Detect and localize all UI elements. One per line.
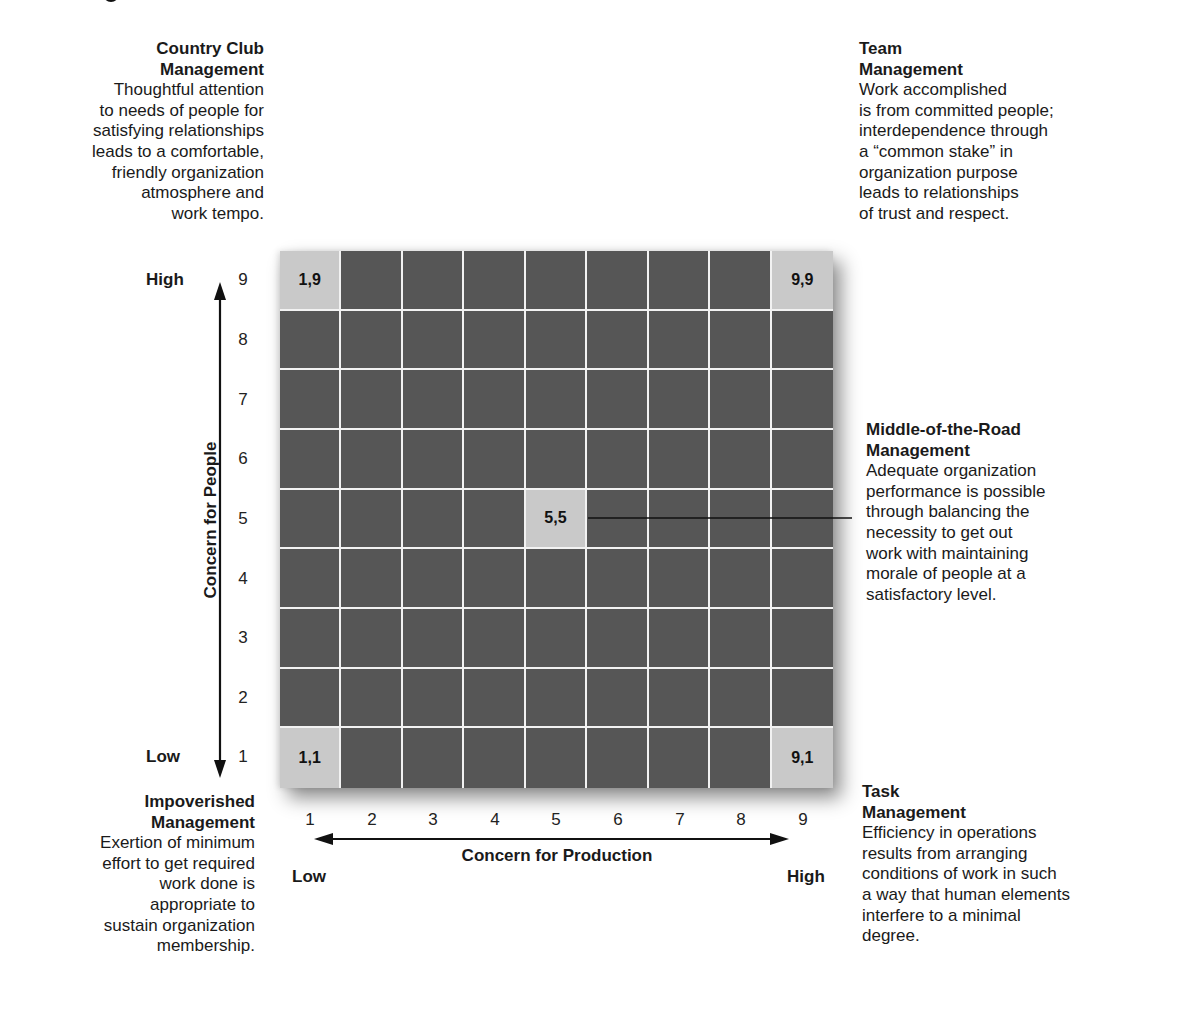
y-axis-double-arrow-icon [214, 282, 226, 778]
x-axis-double-arrow-icon [314, 833, 789, 845]
diagram-arrows [0, 0, 1186, 1013]
